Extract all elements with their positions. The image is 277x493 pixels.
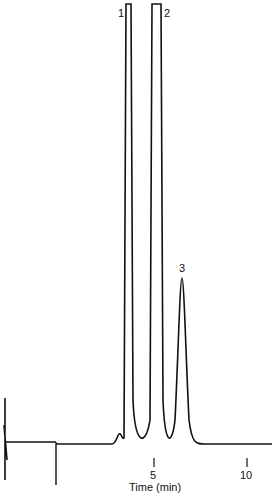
x-axis-label: Time (min) [129,481,181,493]
peak-label-1: 1 [118,7,124,19]
peak-label-2: 2 [164,7,170,19]
chromatogram-trace [6,4,272,444]
x-tick-label-5: 5 [150,469,156,481]
x-tick-label-10: 10 [240,469,252,481]
peak-label-3: 3 [179,262,185,274]
chromatogram [0,0,277,493]
injection-marker [4,398,7,480]
